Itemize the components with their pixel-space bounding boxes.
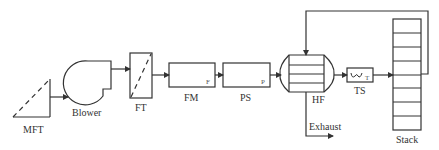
blower-component: [63, 61, 111, 105]
ps-label: PS: [240, 92, 251, 103]
fm-label: FM: [184, 92, 199, 103]
mft-component: [13, 79, 50, 117]
ps-inner-label: P: [261, 78, 265, 86]
blower-label: Blower: [72, 107, 102, 118]
fm-inner-label: F: [206, 78, 210, 86]
ft-label: FT: [135, 102, 147, 113]
hf-component: [280, 55, 334, 92]
mft-label: MFT: [23, 124, 44, 135]
ts-inner-label: T: [365, 74, 370, 82]
hf-label: HF: [312, 94, 325, 105]
stack-label: Stack: [396, 134, 418, 145]
ts-label: TS: [354, 85, 366, 96]
process-diagram: MFT Blower FT F FM P PS HF Exhaust: [0, 0, 439, 150]
ft-component: [130, 53, 152, 98]
stack-component: [393, 19, 421, 130]
exhaust-label: Exhaust: [309, 121, 341, 132]
